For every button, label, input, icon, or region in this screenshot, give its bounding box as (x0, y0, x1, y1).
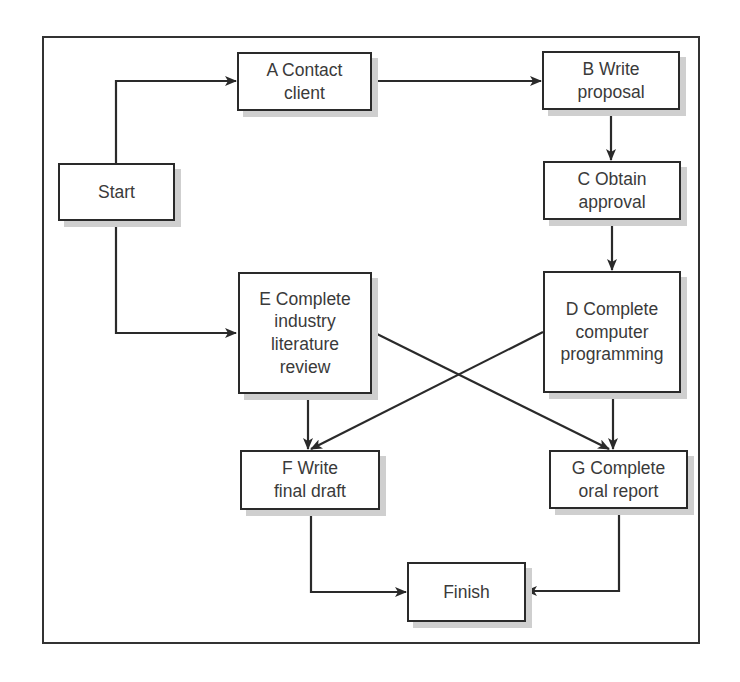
node-g-complete-oral-report: G Complete oral report (549, 450, 688, 509)
node-e-complete-industry-literature-review: E Complete industry literature review (238, 272, 372, 394)
node-c-label: C Obtain approval (577, 168, 646, 214)
node-start: Start (58, 163, 175, 221)
node-f-write-final-draft: F Write final draft (240, 450, 380, 510)
node-start-label: Start (98, 181, 135, 204)
node-d-label: D Complete computer programming (560, 298, 663, 366)
edge-start-e (116, 221, 236, 333)
edge-f-finish (311, 510, 406, 592)
edge-start-a (116, 81, 236, 163)
node-g-label: G Complete oral report (572, 457, 665, 503)
node-d-complete-computer-programming: D Complete computer programming (543, 271, 681, 393)
edge-g-finish (526, 510, 619, 591)
node-c-obtain-approval: C Obtain approval (543, 161, 681, 220)
node-finish: Finish (407, 562, 526, 622)
node-a-contact-client: A Contact client (237, 52, 372, 111)
node-finish-label: Finish (443, 581, 490, 604)
node-f-label: F Write final draft (274, 457, 346, 503)
node-b-write-proposal: B Write proposal (542, 51, 680, 110)
node-e-label: E Complete industry literature review (259, 288, 350, 379)
node-b-label: B Write proposal (577, 58, 644, 104)
node-a-label: A Contact client (267, 59, 343, 105)
